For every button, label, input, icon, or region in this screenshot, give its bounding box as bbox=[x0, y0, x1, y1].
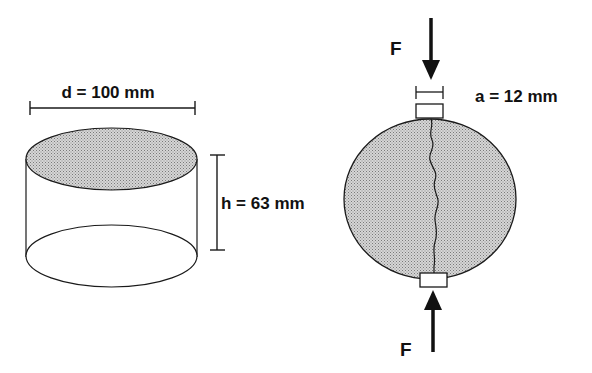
pad-width-label: a = 12 mm bbox=[475, 87, 558, 106]
height-label: h = 63 mm bbox=[221, 194, 305, 213]
bottom-loading-pad bbox=[420, 273, 447, 287]
arrow-down-icon bbox=[422, 18, 440, 80]
disc-specimen: F a = 12 mm F bbox=[344, 18, 558, 360]
top-loading-pad bbox=[416, 104, 443, 118]
arrow-up-icon bbox=[424, 290, 442, 352]
cylinder-top-face bbox=[26, 128, 197, 190]
disc-face bbox=[344, 119, 516, 279]
diameter-dimension bbox=[30, 101, 195, 115]
cylinder-body bbox=[26, 128, 197, 287]
force-top-label: F bbox=[390, 38, 402, 59]
cylinder-specimen: d = 100 mm h = 63 mm bbox=[26, 83, 305, 287]
diameter-label: d = 100 mm bbox=[61, 83, 154, 102]
diagram-canvas: d = 100 mm h = 63 mm F a = 12 m bbox=[0, 0, 592, 373]
pad-width-dimension bbox=[416, 86, 443, 99]
force-bottom-label: F bbox=[400, 339, 412, 360]
